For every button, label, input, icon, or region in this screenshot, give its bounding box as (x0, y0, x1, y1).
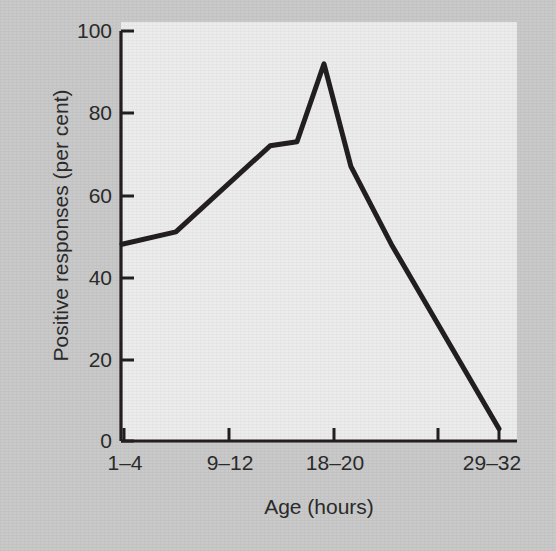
chart-canvas (0, 0, 556, 551)
data-series-positive-responses (122, 64, 499, 429)
chart-figure: 100 80 60 40 20 0 1–4 9–12 18–20 29–32 P… (0, 0, 556, 551)
x-axis-ticks (124, 428, 499, 441)
y-axis-ticks (121, 31, 134, 441)
axis-lines (121, 31, 517, 441)
